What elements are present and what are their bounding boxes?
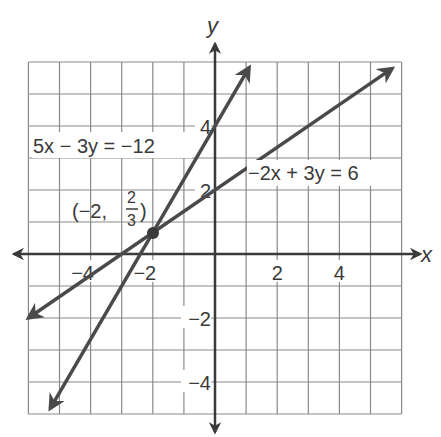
point-label-prefix: (−2, — [72, 200, 107, 222]
equation-label-shallow: −2x + 3y = 6 — [248, 162, 359, 184]
x-tick-label: −2 — [133, 262, 156, 284]
x-tick-label: 4 — [334, 262, 345, 284]
x-tick-label: 2 — [272, 262, 283, 284]
equation-label-steep: 5x − 3y = −12 — [33, 135, 155, 157]
y-axis-label: y — [205, 13, 220, 38]
intersection-point — [147, 227, 159, 239]
point-label-denominator: 3 — [127, 212, 136, 229]
intersection-label: (−2, 2 3 ) — [72, 189, 147, 229]
point-label-numerator: 2 — [127, 189, 136, 206]
y-tick-label: −2 — [188, 308, 211, 330]
x-axis-label: x — [420, 242, 433, 267]
y-tick-label: −4 — [188, 372, 211, 394]
coordinate-plane: x y −4−22442−2−4 5x − 3y = −12 −2x + 3y … — [0, 0, 441, 437]
point-label-suffix: ) — [140, 200, 147, 222]
